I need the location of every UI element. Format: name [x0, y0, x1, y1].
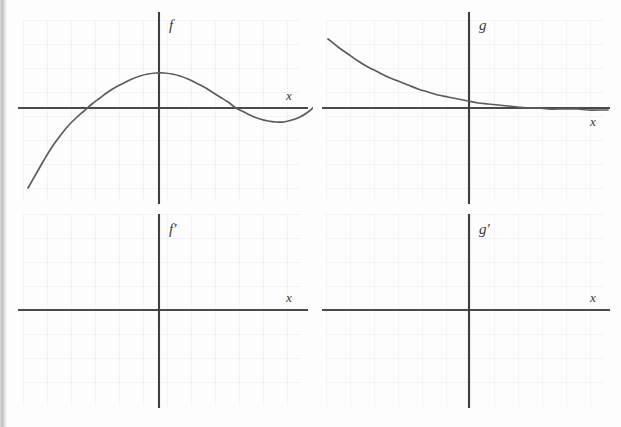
label-g-prime: g′ — [479, 221, 491, 237]
panel-g: g x — [318, 8, 618, 204]
label-g: g — [479, 17, 487, 33]
cut-off-header-text-content: · · · · · · · · · · — [120, 0, 198, 5]
grid-g — [326, 20, 604, 200]
panel-g-prime-canvas: g′ x — [318, 210, 618, 410]
label-x-f: x — [285, 88, 292, 103]
label-x-g-prime: x — [589, 290, 596, 305]
label-x-f-prime: x — [285, 290, 292, 305]
label-x-g: x — [589, 114, 596, 129]
panel-f: f x — [8, 8, 313, 204]
figure-container: · · · · · · · · · · f x — [0, 0, 621, 427]
panel-f-canvas: f x — [8, 8, 313, 204]
panel-f-prime-canvas: f′ x — [8, 210, 313, 410]
panel-g-prime: g′ x — [318, 210, 618, 410]
panel-f-prime: f′ x — [8, 210, 313, 410]
label-f-prime: f′ — [169, 221, 177, 237]
page-binding-edge — [0, 0, 7, 427]
grid-f — [23, 20, 301, 200]
panel-g-canvas: g x — [318, 8, 618, 204]
